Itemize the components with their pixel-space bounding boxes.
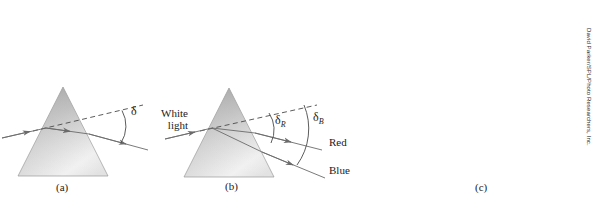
deviation-angle-label: δ: [131, 104, 137, 119]
panel-a-diagram: [0, 0, 160, 202]
red-ray-label: Red: [329, 136, 347, 148]
deviation-blue-label: δB: [313, 110, 324, 126]
caption-c: (c): [475, 181, 487, 193]
blue-ray-label: Blue: [329, 164, 350, 176]
white-light-ray-arrow: [165, 132, 195, 139]
incident-ray-arrow: [2, 132, 30, 139]
deviation-red-arc: [269, 113, 274, 143]
photo-credit: David Parker/SPL/Photo Researchers, Inc.: [586, 28, 592, 154]
deviation-red-label: δR: [275, 113, 286, 129]
panel-c: (c): [365, 0, 610, 202]
deviation-angle-arc: [121, 111, 126, 144]
prism-shading: [184, 88, 274, 177]
emergent-ray-arrow: [89, 134, 126, 144]
deviation-blue-arc: [297, 105, 309, 165]
panel-b: White light δR δB Red Blue (b): [145, 0, 370, 202]
caption-b: (b): [225, 180, 238, 192]
prism-dispersion-figure: δ (a): [0, 0, 610, 202]
white-light-label: White light: [148, 107, 188, 132]
panel-a: δ (a): [0, 0, 160, 202]
caption-a: (a): [56, 181, 68, 193]
